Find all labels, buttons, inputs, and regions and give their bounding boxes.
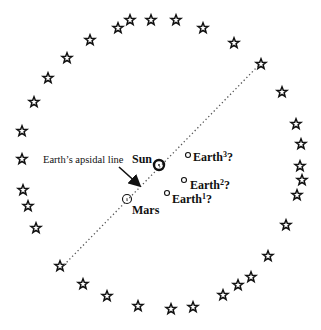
star-icon (229, 38, 239, 48)
star-icon (291, 119, 301, 129)
earth-2-icon (182, 178, 187, 183)
star-icon (125, 15, 135, 25)
diagram-svg: Earth’s apsidal line Sun Mars Earth1? Ea… (0, 0, 321, 330)
earth-3-label: Earth3? (193, 150, 233, 164)
mars-label: Mars (132, 203, 160, 217)
star-icon (296, 139, 306, 149)
earth-1-icon (165, 191, 170, 196)
star-icon (18, 185, 28, 195)
earth-1-label: Earth1? (172, 192, 212, 206)
star-icon (292, 190, 302, 200)
earth-1-marker: Earth1? (165, 191, 213, 207)
star-icon (23, 201, 33, 211)
star-icon (55, 261, 65, 271)
star-icon (133, 301, 143, 311)
star-icon (297, 175, 307, 185)
star-icon (31, 223, 41, 233)
earth-3-marker: Earth3? (186, 150, 234, 164)
star-icon (17, 126, 27, 136)
star-icon (29, 97, 39, 107)
earth-2-marker: Earth2? (182, 178, 231, 193)
diagram-canvas: Earth’s apsidal line Sun Mars Earth1? Ea… (0, 0, 321, 330)
star-icon (166, 304, 176, 314)
star-icon (233, 280, 243, 290)
star-icon (256, 59, 266, 69)
star-icon (198, 23, 208, 33)
star-icon (246, 272, 256, 282)
star-icon (218, 290, 228, 300)
star-icon (113, 23, 123, 33)
star-icon (17, 154, 27, 164)
star-icon (102, 291, 112, 301)
star-icon (188, 302, 198, 312)
star-icon (85, 35, 95, 45)
star-icon (281, 220, 291, 230)
star-icon (171, 15, 181, 25)
star-icon (78, 279, 88, 289)
star-icon (62, 53, 72, 63)
star-icon (146, 15, 156, 25)
star-icon (295, 161, 305, 171)
star-icon (263, 251, 273, 261)
mars-marker: Mars (123, 195, 160, 218)
star-icon (43, 73, 53, 83)
sun-marker: Sun (132, 152, 164, 170)
sun-label: Sun (132, 152, 152, 166)
earth-2-label: Earth2? (190, 178, 230, 192)
earth-3-icon (186, 153, 191, 158)
apsidal-line-label: Earth’s apsidal line (43, 154, 124, 165)
star-icon (277, 87, 287, 97)
arrow-icon (119, 167, 139, 185)
